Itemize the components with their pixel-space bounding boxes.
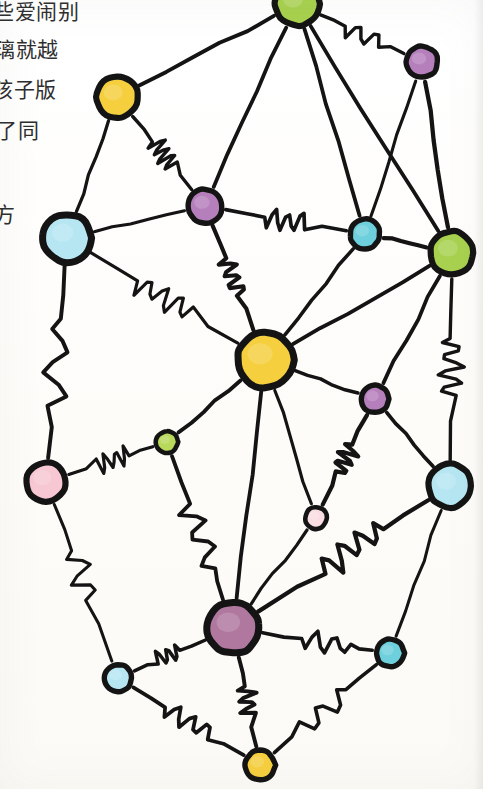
graph-node[interactable] xyxy=(96,77,138,118)
graph-edge xyxy=(237,392,262,598)
node-highlight xyxy=(436,473,456,490)
node-highlight xyxy=(160,435,170,443)
graph-node[interactable] xyxy=(406,46,437,77)
graph-edge xyxy=(387,413,433,467)
graph-edge xyxy=(133,117,192,190)
page-canvas: 些爱闹别 璃就越 孩子版 了同 方 xyxy=(0,0,483,789)
graph-node[interactable] xyxy=(428,463,470,508)
node-highlight xyxy=(52,224,74,242)
graph-node[interactable] xyxy=(238,332,294,388)
graph-node[interactable] xyxy=(305,507,327,529)
node-highlight xyxy=(309,511,319,519)
graph-edge xyxy=(179,381,241,433)
node-highlight xyxy=(438,240,458,257)
graph-edge xyxy=(69,446,153,475)
graph-edge xyxy=(226,209,347,230)
graph-edge xyxy=(371,81,416,216)
node-layer xyxy=(26,0,473,780)
graph-edge xyxy=(396,511,441,637)
graph-edge xyxy=(263,631,373,653)
graph-edge xyxy=(54,505,112,662)
graph-edge xyxy=(384,238,427,247)
graph-edge xyxy=(323,415,367,505)
graph-edge xyxy=(139,16,274,86)
graph-node[interactable] xyxy=(104,665,131,692)
node-highlight xyxy=(33,470,51,485)
graph-edge xyxy=(214,28,287,187)
graph-node[interactable] xyxy=(26,462,65,502)
graph-edge xyxy=(258,500,428,611)
node-highlight xyxy=(247,343,272,364)
node-highlight xyxy=(250,756,264,767)
graph-node[interactable] xyxy=(188,189,222,223)
node-highlight xyxy=(104,84,123,100)
graph-node[interactable] xyxy=(43,215,92,263)
graph-edge xyxy=(304,29,359,216)
graph-edge xyxy=(135,640,206,671)
node-highlight xyxy=(366,391,379,402)
node-highlight xyxy=(194,196,209,209)
graph-edge xyxy=(172,456,223,600)
node-highlight xyxy=(412,52,426,64)
graph-node[interactable] xyxy=(431,231,474,274)
graph-edge xyxy=(43,266,67,458)
graph-node[interactable] xyxy=(207,603,259,653)
graph-edge xyxy=(76,121,108,212)
graph-edge xyxy=(133,687,244,755)
graph-node[interactable] xyxy=(350,219,379,249)
graph-edge xyxy=(285,249,353,335)
node-highlight xyxy=(109,670,122,681)
graph-edge xyxy=(425,82,448,228)
graph-edge xyxy=(321,15,404,54)
graph-edge xyxy=(238,657,257,746)
graph-edge xyxy=(213,226,254,331)
node-highlight xyxy=(356,225,370,236)
node-highlight xyxy=(381,645,394,656)
graph-edge xyxy=(274,665,376,753)
graph-edge xyxy=(295,371,358,393)
graph-node[interactable] xyxy=(245,750,276,780)
network-graph xyxy=(0,0,483,789)
graph-edge xyxy=(275,391,312,504)
graph-edge xyxy=(91,253,238,344)
node-highlight xyxy=(217,612,240,632)
graph-node[interactable] xyxy=(275,0,320,26)
graph-edge xyxy=(94,211,184,232)
graph-edge xyxy=(383,276,440,383)
graph-edge xyxy=(438,279,464,460)
graph-edge xyxy=(251,530,307,604)
graph-node[interactable] xyxy=(156,431,179,453)
graph-node[interactable] xyxy=(377,639,405,667)
graph-node[interactable] xyxy=(361,385,389,412)
